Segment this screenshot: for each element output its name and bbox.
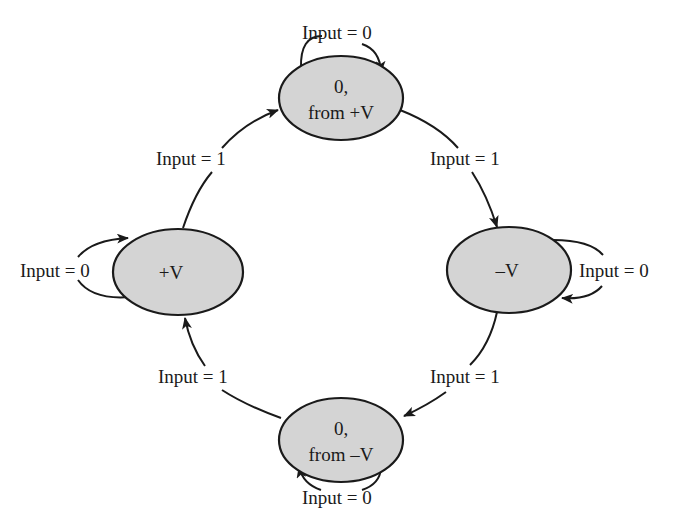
edge-label: Input = 0 xyxy=(302,22,372,43)
state-label: 0, xyxy=(334,418,348,439)
edge-label: Input = 1 xyxy=(158,366,228,387)
state-sublabel: from +V xyxy=(308,102,374,123)
edge-zero-from-neg-to-posv-arrow xyxy=(185,318,205,366)
edge-posv-to-zero-from-pos xyxy=(183,172,212,228)
state-pos-v: +V xyxy=(113,229,243,315)
edge-negv-to-zero-from-neg-arrow xyxy=(404,392,446,416)
edge-label: Input = 1 xyxy=(156,148,226,169)
edge-label: Input = 1 xyxy=(430,366,500,387)
edge-negv-to-zero-from-neg xyxy=(470,312,497,365)
state-diagram: 0, from +V –V 0, from –V +V Input = 0 In… xyxy=(0,0,687,532)
state-zero-from-pos: 0, from +V xyxy=(279,56,403,140)
state-sublabel: from –V xyxy=(309,444,374,465)
edge-zero-from-pos-to-negv-arrow xyxy=(472,172,497,227)
edge-label: Input = 0 xyxy=(302,487,372,508)
state-neg-v: –V xyxy=(447,227,571,313)
edge-zero-from-pos-to-negv xyxy=(400,110,458,148)
state-label: +V xyxy=(159,262,184,283)
edge-label: Input = 0 xyxy=(579,260,649,281)
state-zero-from-neg: 0, from –V xyxy=(279,398,403,482)
self-loop-negv-arrow xyxy=(562,286,602,298)
edge-zero-from-neg-to-posv xyxy=(222,390,281,418)
state-label: –V xyxy=(494,260,519,281)
edge-label: Input = 1 xyxy=(430,148,500,169)
edge-label: Input = 0 xyxy=(20,260,90,281)
edge-posv-to-zero-from-pos-arrow xyxy=(222,110,278,148)
state-label: 0, xyxy=(334,76,348,97)
